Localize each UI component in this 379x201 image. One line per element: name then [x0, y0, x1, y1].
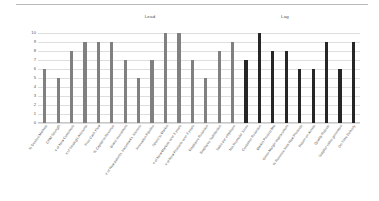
bar-slot: [105, 33, 118, 123]
bar: [164, 33, 167, 123]
bar-slot: [320, 33, 333, 123]
bar-slot: [132, 33, 145, 123]
bar: [177, 33, 180, 123]
bar-slot: [159, 33, 172, 123]
bar: [231, 42, 234, 123]
bar-slot: [172, 33, 185, 123]
bar: [191, 60, 194, 123]
bar: [244, 60, 247, 123]
bar-slot: [199, 33, 212, 123]
bar-slot: [333, 33, 346, 123]
bar-slot: [78, 33, 91, 123]
bar-slot: [280, 33, 293, 123]
bar-slot: [212, 33, 225, 123]
bar: [312, 69, 315, 123]
bar: [97, 42, 100, 123]
bar: [352, 42, 355, 123]
bar-slot: [293, 33, 306, 123]
y-axis-tick-label: 10: [31, 31, 36, 35]
bar: [124, 60, 127, 123]
bar-slot: [266, 33, 279, 123]
y-axis-tick-label: 3: [34, 94, 36, 98]
bar: [338, 69, 341, 123]
bar: [298, 69, 301, 123]
bar: [137, 78, 140, 123]
y-axis-tick-label: 5: [34, 76, 36, 80]
bar-slot: [119, 33, 132, 123]
chart-page: Lead Lag 109876543210 % Desired MarketsC…: [0, 0, 379, 201]
bar-slot: [347, 33, 360, 123]
y-axis-tick-label: 1: [34, 112, 36, 116]
bar: [325, 42, 328, 123]
x-axis-labels: % Desired MarketsCRM Strength# of New Cu…: [38, 124, 360, 200]
plot-area: 109876543210: [38, 33, 360, 123]
bar-slot: [226, 33, 239, 123]
y-axis-tick-label: 8: [34, 49, 36, 53]
bar-slot: [65, 33, 78, 123]
bar-slot: [186, 33, 199, 123]
bar: [285, 51, 288, 123]
y-axis-tick-label: 9: [34, 40, 36, 44]
y-axis-tick-label: 0: [34, 121, 36, 125]
bar: [271, 51, 274, 123]
bar: [43, 69, 46, 123]
bar: [204, 78, 207, 123]
bar-slot: [38, 33, 51, 123]
x-axis-tick-label: % Desired Markets: [28, 124, 48, 151]
bar: [57, 78, 60, 123]
bar: [110, 42, 113, 123]
section-title-lead: Lead: [120, 14, 180, 19]
bar-slot: [239, 33, 252, 123]
bar-slot: [306, 33, 319, 123]
bar-slot: [145, 33, 158, 123]
top-divider: [16, 4, 368, 5]
bar-slot: [92, 33, 105, 123]
section-title-lag: Lag: [255, 14, 315, 19]
y-axis-tick-label: 4: [34, 85, 36, 89]
bar-slot: [51, 33, 64, 123]
bar: [83, 42, 86, 123]
bar: [218, 51, 221, 123]
y-axis-tick-label: 6: [34, 67, 36, 71]
x-label-slot: On-Time Delivery: [347, 124, 360, 200]
y-axis-tick-label: 7: [34, 58, 36, 62]
bar-slot: [253, 33, 266, 123]
bar-series: [38, 33, 360, 123]
bar: [150, 60, 153, 123]
bar: [258, 33, 261, 123]
bar: [70, 51, 73, 123]
y-axis-tick-label: 2: [34, 103, 36, 107]
